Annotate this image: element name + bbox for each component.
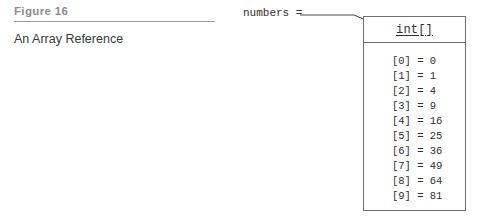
array-element-row: [6] = 36 (392, 144, 465, 159)
array-element-row: [3] = 9 (392, 99, 465, 114)
array-element-row: [0] = 0 (392, 54, 465, 69)
array-element-row: [9] = 81 (392, 189, 465, 204)
caption-divider (14, 21, 215, 22)
reference-variable-label: numbers = (243, 6, 302, 20)
array-element-row: [4] = 16 (392, 114, 465, 129)
array-element-row: [7] = 49 (392, 159, 465, 174)
figure-label: Figure 16 (14, 4, 224, 18)
figure-caption-text: An Array Reference (14, 31, 224, 47)
array-element-row: [1] = 1 (392, 69, 465, 84)
array-type-header: int[] (364, 17, 465, 43)
array-element-row: [2] = 4 (392, 84, 465, 99)
array-type-label: int[] (396, 23, 433, 37)
figure-caption-block: Figure 16 An Array Reference (14, 4, 224, 47)
array-element-list: [0] = 0 [1] = 1 [2] = 4 [3] = 9 [4] = 16… (364, 43, 465, 204)
figure-diagram: Figure 16 An Array Reference numbers = i… (0, 0, 490, 223)
array-element-row: [8] = 64 (392, 174, 465, 189)
array-object-box: int[] [0] = 0 [1] = 1 [2] = 4 [3] = 9 [4… (363, 16, 466, 211)
array-element-row: [5] = 25 (392, 129, 465, 144)
